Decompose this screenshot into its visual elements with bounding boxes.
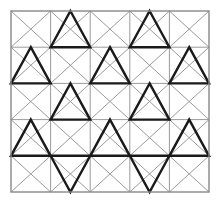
figure-root [0,0,221,204]
tessellation-diagram [0,0,221,204]
